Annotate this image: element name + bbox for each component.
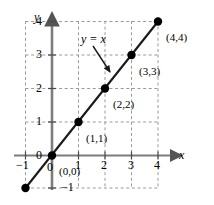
x-tick-label-neg1: −1 — [16, 159, 29, 171]
y-tick-label-3: 3 — [36, 48, 42, 60]
point-label-2-2: (2,2) — [113, 99, 134, 110]
equation-annotation-label: y = x — [81, 33, 106, 45]
point-label-1-1: (1,1) — [86, 133, 107, 144]
data-point — [21, 184, 29, 192]
x-tick-label-0: 0 — [47, 161, 53, 173]
point-label-3-3: (3,3) — [139, 66, 160, 77]
data-point — [154, 17, 162, 25]
line-y-equals-x — [26, 22, 159, 189]
y-tick-label-1: 1 — [36, 115, 42, 127]
coordinate-plane-figure: y x 4 3 2 1 0 −1 −1 0 1 2 3 4 (0,0) (1,1… — [0, 0, 214, 205]
data-point — [48, 151, 56, 159]
data-point — [127, 51, 135, 59]
x-tick-label-4: 4 — [154, 159, 160, 171]
point-label-4-4: (4,4) — [166, 32, 187, 43]
x-tick-label-2: 2 — [101, 159, 107, 171]
y-tick-label-neg1: −1 — [61, 181, 74, 193]
data-point — [74, 118, 82, 126]
x-axis-label: x — [179, 149, 184, 161]
y-tick-label-2: 2 — [36, 82, 42, 94]
y-tick-label-4: 4 — [36, 15, 42, 27]
point-label-0-0: (0,0) — [59, 166, 80, 177]
annotation-arrow — [93, 46, 110, 72]
x-tick-label-3: 3 — [128, 159, 134, 171]
y-tick-label-0: 0 — [36, 149, 42, 161]
data-point — [101, 84, 109, 92]
